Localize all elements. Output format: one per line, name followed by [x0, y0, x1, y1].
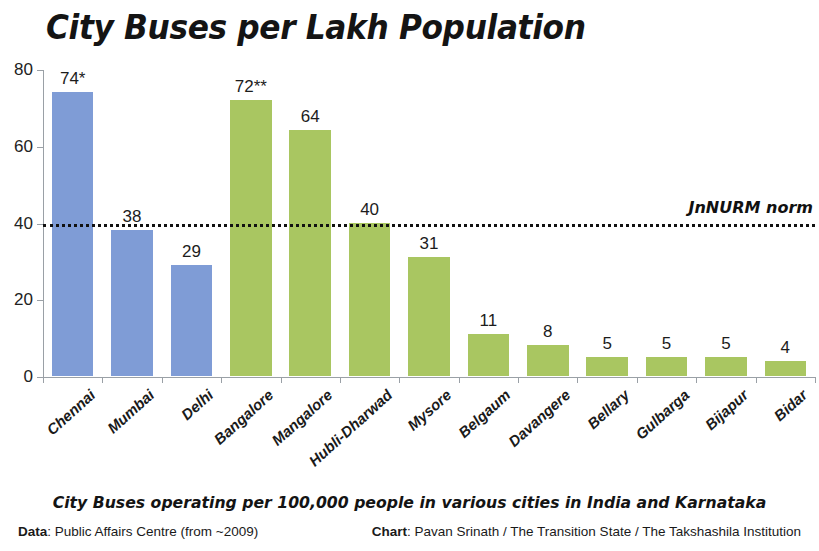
jnnurm-norm-label: JnNURM norm: [689, 198, 813, 217]
x-label-chennai: Chennai: [43, 386, 98, 438]
bar-bangalore[interactable]: [230, 100, 272, 376]
bar-value-label: 40: [340, 200, 399, 220]
bar-value-label: 5: [637, 334, 696, 354]
plot-area: 020406080 74*382972**6440311185554 JnNUR…: [43, 70, 815, 377]
chart-subtitle: City Buses operating per 100,000 people …: [20, 493, 798, 512]
y-tick-20: 20: [43, 300, 44, 301]
bar-value-label: 5: [577, 334, 636, 354]
bar-belgaum[interactable]: [468, 334, 510, 376]
bar-gulbarga[interactable]: [646, 357, 688, 376]
y-tick-label: 80: [14, 60, 33, 80]
y-tick-mark: [37, 147, 43, 148]
y-tick-label: 0: [24, 367, 33, 387]
x-axis-category-labels: ChennaiMumbaiDelhiBangaloreMangaloreHubl…: [43, 380, 819, 470]
data-credit: Data: Public Affairs Centre (from ~2009): [18, 524, 258, 539]
bar-bijapur[interactable]: [705, 357, 747, 376]
x-label-bidar: Bidar: [771, 386, 811, 424]
chart-title: City Buses per Lakh Population: [46, 4, 727, 52]
y-tick-label: 40: [14, 214, 33, 234]
bar-chennai[interactable]: [52, 92, 94, 376]
x-label-bijapur: Bijapur: [702, 386, 752, 433]
x-label-delhi: Delhi: [178, 386, 217, 423]
y-tick-label: 20: [14, 290, 33, 310]
x-label-bellary: Bellary: [584, 386, 633, 432]
bar-value-label: 31: [399, 234, 458, 254]
data-credit-value: : Public Affairs Centre (from ~2009): [47, 524, 258, 539]
chart-credit-value: : Pavan Srinath / The Transition State /…: [407, 524, 801, 539]
bar-mumbai[interactable]: [111, 230, 153, 376]
bar-value-label: 29: [162, 242, 221, 262]
bar-value-label: 64: [281, 107, 340, 127]
bar-mysore[interactable]: [408, 257, 450, 376]
bar-value-label: 5: [696, 334, 755, 354]
x-axis-line: [43, 377, 815, 378]
x-label-mysore: Mysore: [404, 386, 454, 434]
bar-value-label: 4: [756, 338, 815, 358]
x-label-belgaum: Belgaum: [455, 386, 513, 441]
chart-credit-label: Chart: [372, 524, 407, 539]
x-label-davangere: Davangere: [505, 386, 573, 450]
chart-credit: Chart: Pavan Srinath / The Transition St…: [372, 524, 801, 539]
bar-value-label: 74*: [43, 69, 102, 89]
x-label-gulbarga: Gulbarga: [632, 386, 692, 443]
x-label-mumbai: Mumbai: [104, 386, 157, 437]
chart-figure: City Buses per Lakh Population 020406080…: [0, 0, 819, 551]
bar-mangalore[interactable]: [289, 130, 331, 376]
bar-bellary[interactable]: [586, 357, 628, 376]
jnnurm-norm-line: [43, 224, 815, 227]
bar-value-label: 11: [459, 311, 518, 331]
x-label-bangalore: Bangalore: [210, 386, 276, 448]
y-tick-mark: [37, 300, 43, 301]
bar-value-label: 8: [518, 322, 577, 342]
bar-davangere[interactable]: [527, 345, 569, 376]
bar-bidar[interactable]: [765, 361, 807, 376]
bar-value-label: 72**: [221, 77, 280, 97]
y-tick-60: 60: [43, 147, 44, 148]
credits-row: Data: Public Affairs Centre (from ~2009)…: [18, 524, 801, 539]
bar-hubli-dharwad[interactable]: [349, 223, 391, 377]
y-tick-label: 60: [14, 137, 33, 157]
bar-delhi[interactable]: [171, 265, 213, 376]
data-credit-label: Data: [18, 524, 47, 539]
